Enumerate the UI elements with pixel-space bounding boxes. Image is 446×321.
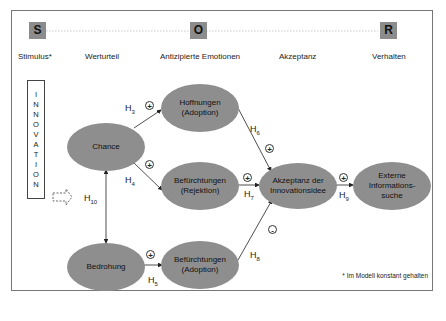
stage-box-s: S	[29, 22, 46, 39]
hypothesis-h8: H8	[250, 250, 260, 262]
node-label: Bedrohung	[86, 262, 125, 272]
node-chance: Chance	[67, 123, 145, 171]
node-label: Befürchtungen	[174, 176, 226, 186]
stage-label-verhalten: Verhalten	[372, 52, 406, 61]
innovation-box: I N N O V A T I O N	[27, 80, 45, 199]
footnote: * Im Modell konstant gehalten	[342, 272, 428, 279]
sign-plus-h3: +	[145, 101, 154, 110]
innovation-letter: I	[35, 90, 37, 100]
stage-label-werturteil: Werturteil	[85, 52, 119, 61]
innovation-letter: N	[33, 100, 38, 110]
node-label: Innovationsidee	[270, 186, 326, 196]
stage-box-o: O	[190, 22, 207, 39]
innovation-letter: O	[33, 120, 39, 130]
stage-label-stimulus: Stimulus*	[18, 52, 52, 61]
innovation-letter: A	[33, 140, 38, 150]
sign-plus-h5: +	[146, 250, 155, 259]
hypothesis-h5: H5	[148, 275, 158, 287]
node-label: Hoffnungen	[179, 98, 220, 108]
stage-box-r: R	[380, 22, 397, 39]
node-label: Informations-	[369, 181, 416, 191]
node-label: (Rejektion)	[181, 186, 220, 196]
node-label: suche	[381, 191, 402, 201]
figure-caption-clipped	[0, 316, 446, 321]
sign-plus-h9: +	[339, 173, 348, 182]
node-label: (Adoption)	[182, 108, 219, 118]
hypothesis-h9: H9	[339, 190, 349, 202]
hypothesis-h7: H7	[244, 189, 254, 201]
innovation-letter: V	[33, 130, 38, 140]
node-akzeptanz: Akzeptanz der Innovationsidee	[259, 163, 337, 209]
sign-minus-h8: -	[268, 225, 277, 234]
hypothesis-h6: H6	[250, 124, 260, 136]
node-befuerchtungen-rejektion: Befürchtungen (Rejektion)	[161, 162, 239, 210]
node-befuerchtungen-adoption: Befürchtungen (Adoption)	[161, 241, 239, 289]
sign-plus-h6: +	[265, 144, 274, 153]
node-externe: Externe Informations- suche	[353, 162, 431, 210]
node-bedrohung: Bedrohung	[67, 243, 145, 291]
innovation-letter: T	[34, 150, 39, 160]
stage-label-emotionen: Antizipierte Emotionen	[160, 52, 240, 61]
node-label: Externe	[378, 171, 406, 181]
innovation-letter: N	[33, 110, 38, 120]
stage-label-akzeptanz: Akzeptanz	[279, 52, 316, 61]
node-label: Befürchtungen	[174, 255, 226, 265]
node-hoffnungen: Hoffnungen (Adoption)	[161, 84, 239, 132]
innovation-letter: O	[33, 170, 39, 180]
hypothesis-h10: H10	[84, 193, 97, 205]
node-label: Chance	[92, 142, 120, 152]
innovation-letter: N	[33, 180, 38, 190]
hypothesis-h4: H4	[125, 175, 135, 187]
innovation-letter: I	[35, 160, 37, 170]
sign-plus-h4: +	[145, 160, 154, 169]
hypothesis-h3: H3	[125, 103, 135, 115]
node-label: Akzeptanz der	[272, 176, 323, 186]
node-label: (Adoption)	[182, 265, 219, 275]
sign-plus-h7: +	[243, 173, 252, 182]
